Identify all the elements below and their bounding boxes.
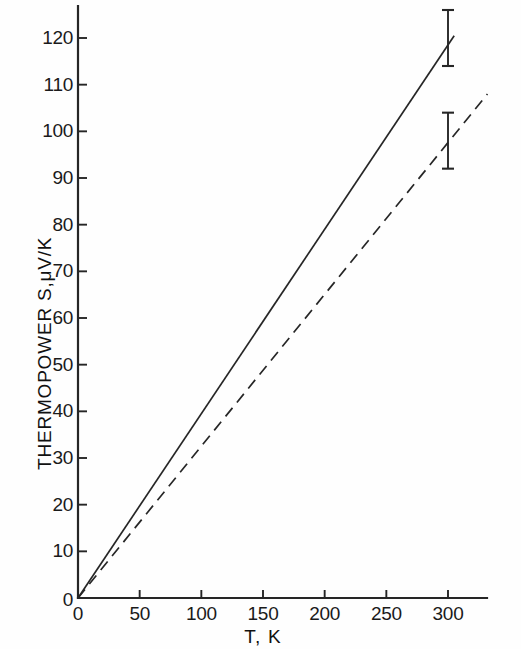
- series-line-solid: [78, 36, 454, 598]
- y-tick-label: 120: [42, 27, 73, 49]
- x-tick-label: 150: [248, 603, 279, 625]
- x-axis-title: T, K: [244, 626, 282, 648]
- y-tick-label: 100: [42, 120, 73, 142]
- plot-canvas: [0, 0, 521, 649]
- y-axis-title: THERMOPOWER S,μV/K: [34, 237, 56, 470]
- x-tick-label: 50: [129, 603, 150, 625]
- y-tick-label: 110: [44, 74, 73, 96]
- y-tick-label: 10: [52, 540, 73, 562]
- figure-root: 0102030405060708090100110120 05010015020…: [0, 0, 521, 649]
- y-tick-label: 20: [52, 494, 73, 516]
- y-tick-label: 90: [52, 167, 73, 189]
- x-tick-label: 100: [186, 603, 217, 625]
- series-line-dashed: [78, 94, 487, 598]
- x-tick-label: 300: [433, 603, 464, 625]
- error-bars-group: [442, 10, 454, 169]
- x-tick-label: 250: [371, 603, 402, 625]
- y-tick-label: 0: [63, 589, 73, 611]
- data-series-group: [78, 36, 487, 598]
- axis-group: [78, 6, 487, 598]
- y-tick-label: 80: [52, 214, 73, 236]
- x-tick-label: 0: [73, 603, 83, 625]
- x-tick-label: 200: [309, 603, 340, 625]
